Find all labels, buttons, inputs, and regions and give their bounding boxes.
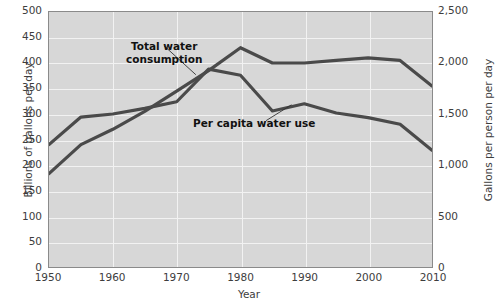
y-axis-right-tick-label: 2,000 [438,55,484,67]
x-axis-tick-label: 2000 [339,271,399,283]
x-axis-tick-label: 1960 [82,271,142,283]
y-axis-left-title: Billions of gallons per day [22,50,34,210]
x-axis-tick-label: 2010 [403,271,463,283]
annotation-per-capita-water-use: Per capita water use [193,117,315,130]
x-axis-tick-label: 1990 [275,271,335,283]
water-use-chart-figure: Total water consumption Per capita water… [0,0,498,308]
x-axis-tick-label: 1980 [211,271,271,283]
annotation-total-water-consumption: Total water consumption [126,40,202,65]
y-axis-left-tick-label: 100 [2,210,42,222]
y-axis-right-tick-label: 1,500 [438,107,484,119]
y-axis-right-tick-label: 2,500 [438,4,484,16]
x-axis-title: Year [0,288,498,300]
series-line-per-capita-water-use [49,69,432,150]
x-axis-tick-label: 1970 [146,271,206,283]
x-axis-tick-label: 1950 [18,271,78,283]
y-axis-left-tick-label: 50 [2,235,42,247]
plot-area [48,11,433,268]
series-line-total-water-consumption [49,48,432,174]
y-axis-left-tick-label: 450 [2,30,42,42]
y-axis-left-tick-label: 500 [2,4,42,16]
y-axis-right-title: Gallons per person per day [482,40,494,220]
data-lines-svg [49,12,432,267]
y-axis-right-tick-label: 1,000 [438,158,484,170]
y-axis-right-tick-label: 500 [438,210,484,222]
